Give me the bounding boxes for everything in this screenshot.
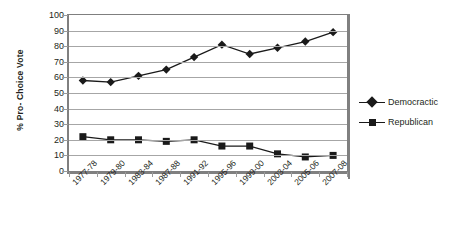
x-tick-label: 1977-78 [70,158,99,187]
legend-label: Republican [385,117,433,127]
x-tick-label: 1999-00 [237,158,266,187]
x-tick-label: 2007-08 [320,158,349,187]
x-tick-label: 1983-84 [126,158,155,187]
x-tick-mark [180,172,181,177]
x-tick-mark [291,172,292,177]
y-tick-mark [62,93,68,94]
diamond-marker-icon [359,96,385,108]
y-tick-mark [62,46,68,47]
x-tick-mark [236,172,237,177]
square-marker-icon [359,116,385,128]
x-tick-label: 1995-96 [209,158,238,187]
x-tick-label: 2003-04 [265,158,294,187]
x-tick-mark [152,172,153,177]
y-tick-mark [62,109,68,110]
x-tick-label: 1991-92 [181,158,210,187]
x-tick-mark [125,172,126,177]
legend-item-democractic[interactable]: Democractic [359,92,463,112]
chart-legend: DemocracticRepublican [359,92,463,132]
y-tick-mark [62,31,68,32]
legend-label: Democractic [385,97,438,107]
y-tick-mark [62,124,68,125]
x-tick-label: 1979-80 [98,158,127,187]
y-tick-mark [62,155,68,156]
x-tick-label: 1987-88 [153,158,182,187]
y-tick-mark [62,77,68,78]
x-tick-mark [97,172,98,177]
legend-item-republican[interactable]: Republican [359,112,463,132]
x-tick-mark [319,172,320,177]
x-tick-label: 2005-06 [292,158,321,187]
x-tick-mark [208,172,209,177]
y-tick-mark [62,62,68,63]
y-tick-mark [62,171,68,172]
x-tick-mark [264,172,265,177]
pro-choice-vote-line-chart: % Pro- Choice Vote 010203040506070809010… [0,0,463,232]
y-tick-mark [62,15,68,16]
x-tick-mark [69,172,70,177]
y-tick-mark [62,140,68,141]
x-tick-mark [347,172,348,177]
